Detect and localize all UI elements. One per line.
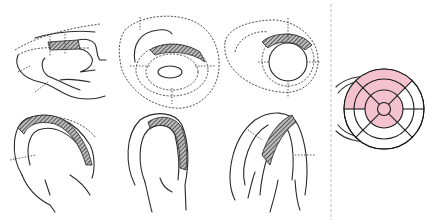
- panel-short-axis-papillary: [225, 18, 320, 98]
- panel-apical-two-chamber: [128, 114, 188, 212]
- panel-apical-long-axis: [230, 113, 315, 212]
- panel-parasternal-long-axis: [15, 24, 106, 99]
- echo-diagram: [0, 0, 436, 224]
- panel-apical-four-chamber: [10, 115, 96, 212]
- bullseye-plot: [336, 69, 424, 149]
- panel-short-axis-mitral: [119, 16, 219, 108]
